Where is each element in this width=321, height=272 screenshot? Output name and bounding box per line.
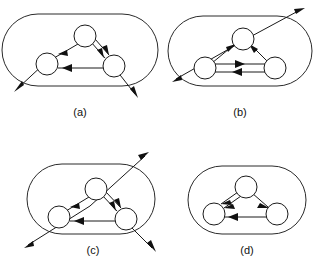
arrowhead-icon	[172, 75, 182, 82]
panel-a-edge-top-left	[54, 44, 78, 58]
panel-a: (a)	[2, 14, 158, 118]
graph-node-left	[194, 57, 216, 79]
arrowhead-icon	[294, 8, 305, 14]
arrowhead-icon	[109, 201, 116, 211]
graph-node-top	[85, 178, 107, 200]
arrowhead-icon	[232, 68, 242, 76]
panel-c-edge-left-right	[70, 217, 117, 225]
arrowhead-icon	[130, 86, 138, 98]
panel-b-label: (b)	[233, 106, 246, 118]
graph-node-top	[232, 28, 254, 50]
panel-d: (d)	[188, 166, 306, 256]
panel-d-edge-right-left	[224, 213, 268, 221]
figure-container: (a) (b)	[0, 0, 321, 272]
graph-node-left	[36, 53, 58, 75]
graph-node-right	[266, 203, 288, 225]
graph-node-left	[48, 206, 70, 228]
arrowhead-icon	[62, 64, 72, 72]
arrowhead-icon	[74, 217, 84, 225]
panel-b-boundary	[168, 16, 312, 86]
arrowhead-icon	[147, 240, 156, 252]
panel-c-label: (c)	[87, 244, 100, 256]
graph-node-left	[203, 203, 225, 225]
arrowhead-icon	[14, 81, 24, 92]
panel-b-edge-left-top	[212, 44, 236, 63]
panel-d-label: (d)	[240, 244, 253, 256]
panel-b-edge-left-right-double	[214, 60, 266, 76]
panel-b: (b)	[168, 8, 312, 118]
graph-node-top	[235, 176, 257, 198]
four-panel-graph-figure: (a) (b)	[0, 0, 321, 272]
arrowhead-icon	[235, 60, 245, 68]
panel-d-edge-top-right	[252, 193, 269, 208]
panel-a-label: (a)	[73, 106, 86, 118]
arrowhead-icon	[138, 152, 149, 160]
graph-node-right	[264, 57, 286, 79]
graph-node-right	[103, 55, 125, 77]
graph-node-top	[74, 25, 96, 47]
panel-c: (c)	[24, 152, 156, 256]
panel-a-edge-left-right	[58, 64, 105, 72]
panel-a-boundary	[2, 14, 158, 86]
arrowhead-icon	[24, 241, 34, 248]
arrowhead-icon	[257, 203, 269, 208]
panel-b-edge-right-top	[249, 44, 268, 62]
arrowhead-icon	[228, 213, 238, 221]
graph-node-right	[115, 208, 137, 230]
